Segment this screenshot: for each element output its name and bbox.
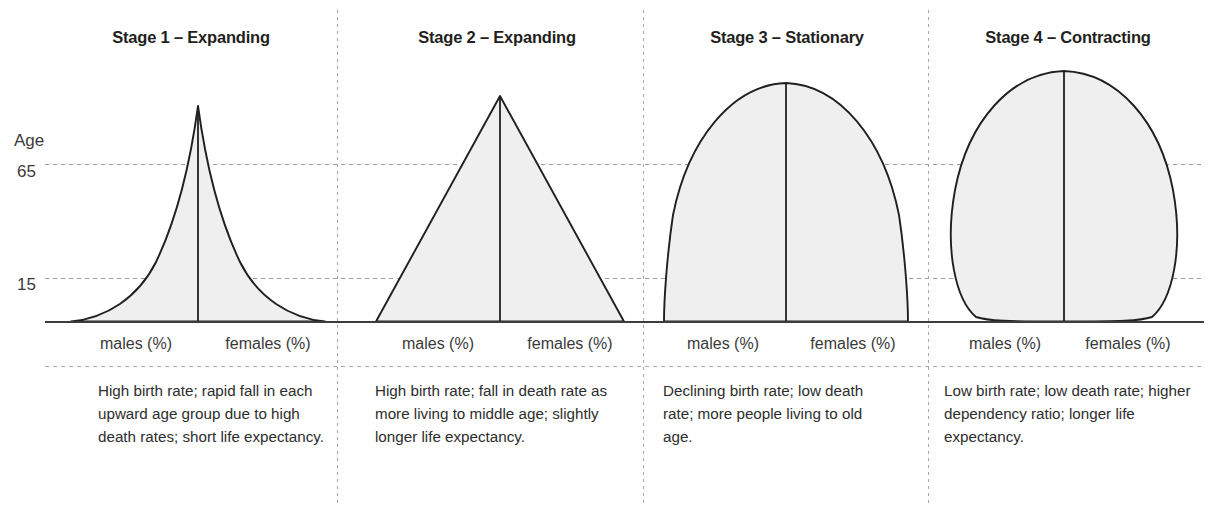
males-label-2: males (%) [374,336,502,352]
tick-label-15: 15 [17,276,36,293]
stage-title-1: Stage 1 – Expanding [46,29,336,46]
females-label-2: females (%) [502,336,638,352]
stage-title-3: Stage 3 – Stationary [645,29,929,46]
demographic-transition-figure: Age 65 15 Stage 1 – Expanding males (%) … [0,0,1212,513]
females-label-1: females (%) [200,336,336,352]
males-label-3: males (%) [660,336,786,352]
stage-description-2: High birth rate; fall in death rate as m… [375,379,615,448]
females-label-3: females (%) [786,336,920,352]
females-label-4: females (%) [1064,336,1192,352]
age-axis-label: Age [14,132,44,149]
stage-title-4: Stage 4 – Contracting [930,29,1206,46]
stage-title-2: Stage 2 – Expanding [352,29,642,46]
stage-description-1: High birth rate; rapid fall in each upwa… [98,379,326,448]
stage-description-4: Low birth rate; low death rate; higher d… [944,379,1192,448]
tick-label-65: 65 [17,163,36,180]
males-label-4: males (%) [946,336,1064,352]
stage-description-3: Declining birth rate; low death rate; mo… [663,379,891,448]
males-label-1: males (%) [72,336,200,352]
